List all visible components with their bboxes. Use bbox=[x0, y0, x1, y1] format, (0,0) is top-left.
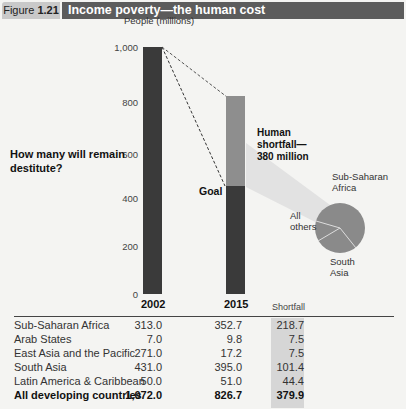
y-axis-label: People (millions) bbox=[124, 15, 194, 26]
value-2015: 395.0 bbox=[214, 360, 242, 374]
y-tick: 1,000 bbox=[106, 42, 138, 53]
goal-label: Goal bbox=[199, 185, 222, 197]
table-row: South Asia 431.0 395.0 101.4 bbox=[14, 360, 314, 374]
shortfall-line: shortfall— bbox=[257, 139, 309, 151]
pie-label-line: Asia bbox=[330, 267, 355, 278]
pie-label-line: All bbox=[290, 210, 316, 221]
value-shortfall: 101.4 bbox=[276, 360, 304, 374]
table-row: East Asia and the Pacific 271.0 17.2 7.5 bbox=[14, 346, 314, 360]
value-2002: 7.0 bbox=[147, 332, 162, 346]
table-row-total: All developing countries 1,072.0 826.7 3… bbox=[14, 388, 314, 402]
question-annotation: How many will remain destitute? bbox=[10, 147, 130, 175]
shortfall-annotation: Human shortfall— 380 million bbox=[257, 127, 309, 163]
value-shortfall: 379.9 bbox=[276, 388, 304, 402]
year-label-2002: 2002 bbox=[141, 298, 165, 310]
pie-label-line: others bbox=[290, 221, 316, 232]
region-name: Arab States bbox=[14, 332, 71, 346]
y-tick: 200 bbox=[106, 241, 138, 252]
shortfall-line: Human bbox=[257, 127, 309, 139]
shortfall-header: Shortfall bbox=[272, 302, 305, 312]
value-2002: 431.0 bbox=[134, 360, 162, 374]
table-row: Arab States 7.0 9.8 7.5 bbox=[14, 332, 314, 346]
bar-2002 bbox=[143, 47, 162, 294]
value-shortfall: 218.7 bbox=[276, 318, 304, 332]
value-shortfall: 7.5 bbox=[289, 332, 304, 346]
y-tick: 0 bbox=[106, 289, 138, 300]
year-label-2015: 2015 bbox=[224, 298, 248, 310]
pie-label-line: South bbox=[330, 256, 355, 267]
region-name: East Asia and the Pacific bbox=[14, 346, 135, 360]
pie-label-line: Africa bbox=[332, 182, 388, 193]
shortfall-line: 380 million bbox=[257, 151, 309, 163]
pie-label-ssa: Sub-Saharan Africa bbox=[332, 171, 388, 193]
y-tick: 800 bbox=[106, 97, 138, 108]
value-shortfall: 44.4 bbox=[283, 374, 304, 388]
bar-2015-shortfall bbox=[226, 96, 245, 186]
value-2015: 352.7 bbox=[214, 318, 242, 332]
pie-label-south-asia: South Asia bbox=[330, 256, 355, 278]
value-2002: 313.0 bbox=[134, 318, 162, 332]
value-2015: 17.2 bbox=[221, 346, 242, 360]
value-2015: 826.7 bbox=[214, 388, 242, 402]
value-2002: 50.0 bbox=[141, 374, 162, 388]
dashed-line-top bbox=[162, 47, 227, 97]
table-row: Latin America & Caribbean 50.0 51.0 44.4 bbox=[14, 374, 314, 388]
value-2002: 1,072.0 bbox=[125, 388, 162, 402]
table-row: Sub-Saharan Africa 313.0 352.7 218.7 bbox=[14, 318, 314, 332]
region-name: Latin America & Caribbean bbox=[14, 374, 145, 388]
region-name: Sub-Saharan Africa bbox=[14, 318, 109, 332]
bar-2015-goal bbox=[226, 186, 245, 294]
table-rule bbox=[14, 316, 394, 317]
value-2002: 271.0 bbox=[134, 346, 162, 360]
value-2015: 9.8 bbox=[227, 332, 242, 346]
value-2015: 51.0 bbox=[221, 374, 242, 388]
y-tick: 400 bbox=[106, 193, 138, 204]
region-name: South Asia bbox=[14, 360, 67, 374]
value-shortfall: 7.5 bbox=[289, 346, 304, 360]
pie-label-others: All others bbox=[290, 210, 316, 232]
dashed-line-goal bbox=[162, 47, 225, 186]
pie-label-line: Sub-Saharan bbox=[332, 171, 388, 182]
region-name: All developing countries bbox=[14, 388, 142, 402]
